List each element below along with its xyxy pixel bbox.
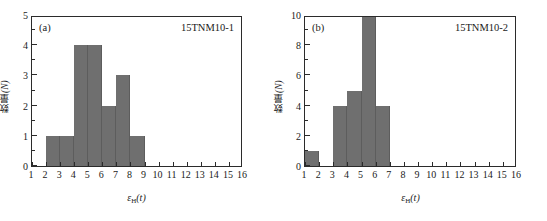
y-tick xyxy=(32,74,37,75)
x-tick xyxy=(74,162,75,167)
y-tick-minor xyxy=(305,150,308,151)
x-tick xyxy=(46,162,47,167)
y-tick-label: 5 xyxy=(4,11,28,21)
x-tick xyxy=(145,162,146,167)
bar xyxy=(102,106,116,166)
x-tick xyxy=(475,162,476,167)
x-tick xyxy=(376,162,377,167)
x-tick xyxy=(102,162,103,167)
y-tick xyxy=(305,44,310,45)
x-tick xyxy=(173,162,174,167)
y-tick-minor xyxy=(32,90,35,91)
x-tick xyxy=(432,162,433,167)
y-axis-title-unit-b: (N) xyxy=(274,81,284,94)
x-tick xyxy=(116,162,117,167)
bar xyxy=(130,136,144,166)
x-tick xyxy=(503,162,504,167)
x-tick-label: 16 xyxy=(508,170,524,180)
x-axis-title-b: εH(t) xyxy=(305,192,516,205)
x-tick xyxy=(32,162,33,167)
bar xyxy=(376,106,390,166)
panel-b: 数量(N) (b) 15TNM10-2 0246810 123456789101… xyxy=(274,0,547,221)
x-tick xyxy=(390,162,391,167)
x-tick xyxy=(333,162,334,167)
y-tick-minor xyxy=(305,59,308,60)
x-tick xyxy=(460,162,461,167)
y-tick-label: 8 xyxy=(277,41,301,51)
y-tick-label: 10 xyxy=(277,11,301,21)
x-tick xyxy=(446,162,447,167)
x-tick xyxy=(347,162,348,167)
y-tick-minor xyxy=(305,29,308,30)
x-tick xyxy=(319,162,320,167)
bar xyxy=(88,45,102,166)
x-tick xyxy=(489,162,490,167)
x-tick xyxy=(418,162,419,167)
bar xyxy=(347,91,361,167)
x-axis-title-a: εH(t) xyxy=(31,192,242,205)
y-axis-title-a: 数量(N) xyxy=(0,52,14,142)
y-tick-label: 1 xyxy=(4,132,28,142)
x-tick xyxy=(60,162,61,167)
bar xyxy=(362,16,376,166)
bar xyxy=(46,136,60,166)
bars-a xyxy=(32,17,241,166)
x-tick xyxy=(187,162,188,167)
y-tick-label: 4 xyxy=(4,41,28,51)
y-tick-minor xyxy=(32,150,35,151)
y-tick xyxy=(32,135,37,136)
y-tick xyxy=(305,74,310,75)
x-tick xyxy=(362,162,363,167)
x-tick xyxy=(404,162,405,167)
y-tick-minor xyxy=(305,90,308,91)
bar xyxy=(333,106,347,166)
plot-area-a: (a) 15TNM10-1 xyxy=(31,16,242,167)
x-tick-label: 16 xyxy=(234,170,250,180)
bar xyxy=(116,75,130,166)
x-tick xyxy=(305,162,306,167)
bar xyxy=(60,136,74,166)
y-tick-minor xyxy=(32,29,35,30)
bar xyxy=(74,45,88,166)
panel-a: 数量(N) (a) 15TNM10-1 012345 1234567891011… xyxy=(0,0,273,221)
x-tick xyxy=(159,162,160,167)
x-tick xyxy=(130,162,131,167)
x-axis-arg-a: (t) xyxy=(136,192,145,203)
y-tick-minor xyxy=(32,59,35,60)
y-tick-label: 2 xyxy=(277,132,301,142)
bar xyxy=(305,151,319,166)
x-tick xyxy=(201,162,202,167)
y-tick-minor xyxy=(305,120,308,121)
plot-area-b: (b) 15TNM10-2 xyxy=(304,16,516,167)
y-tick-label: 4 xyxy=(277,102,301,112)
y-axis-title-b: 数量(N) xyxy=(274,52,288,142)
y-axis-title-unit-a: (N) xyxy=(0,81,10,94)
y-tick-label: 3 xyxy=(4,71,28,81)
y-tick xyxy=(305,135,310,136)
y-tick xyxy=(32,105,37,106)
x-tick xyxy=(215,162,216,167)
y-tick xyxy=(32,44,37,45)
histogram-figure: 数量(N) (a) 15TNM10-1 012345 1234567891011… xyxy=(0,0,547,221)
bars-b xyxy=(305,17,515,166)
y-tick-label: 6 xyxy=(277,71,301,81)
y-tick-minor xyxy=(32,120,35,121)
x-tick xyxy=(229,162,230,167)
y-tick xyxy=(305,105,310,106)
x-tick xyxy=(88,162,89,167)
y-tick-label: 2 xyxy=(4,102,28,112)
x-axis-arg-b: (t) xyxy=(410,192,419,203)
